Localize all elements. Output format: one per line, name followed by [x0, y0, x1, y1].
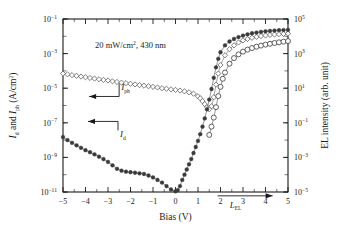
data-point: [111, 163, 115, 167]
data-point: [187, 162, 191, 166]
data-point: [129, 170, 133, 174]
data-point: [264, 29, 268, 33]
data-point: [286, 39, 291, 44]
data-point: [219, 50, 223, 54]
data-point: [207, 98, 211, 102]
data-point: [189, 157, 193, 161]
annotation-illumination: 20 mW/cm2, 430 nm: [95, 40, 166, 50]
data-point: [194, 145, 198, 149]
data-point: [255, 31, 259, 35]
data-point: [220, 76, 225, 81]
data-point: [160, 181, 164, 185]
data-point: [277, 28, 281, 32]
data-point: [282, 28, 286, 32]
chart-canvas: −5−4−3−2−101234510−1110−910−710−510−310−…: [0, 0, 342, 237]
data-point: [246, 32, 250, 36]
x-tick-label: 3: [241, 197, 245, 206]
data-point: [156, 178, 160, 182]
data-point: [120, 169, 124, 173]
y2-axis-label: EL intensity (arb. unit): [320, 62, 331, 149]
data-point: [142, 172, 146, 176]
data-point: [185, 168, 189, 172]
x-tick-label: −3: [104, 197, 113, 206]
data-point: [286, 28, 290, 32]
x-axis-label: Bias (V): [159, 212, 191, 223]
data-point: [196, 139, 200, 143]
x-tick-label: 1: [196, 197, 200, 206]
x-tick-label: −1: [149, 197, 158, 206]
data-point: [70, 141, 74, 145]
x-tick-label: −4: [81, 197, 90, 206]
data-point: [268, 29, 272, 33]
y-axis-label: Id and Iph (A/cm2): [8, 73, 20, 140]
data-point: [214, 65, 218, 69]
data-point: [216, 57, 220, 61]
data-point: [183, 173, 187, 177]
data-point: [273, 29, 277, 33]
data-point: [210, 87, 214, 91]
data-point: [209, 124, 214, 129]
data-point: [214, 105, 219, 110]
data-point: [218, 84, 223, 89]
data-point: [97, 155, 101, 159]
data-point: [259, 30, 263, 34]
data-point: [115, 167, 119, 171]
data-point: [180, 178, 184, 182]
x-tick-label: 2: [219, 197, 223, 206]
data-point: [102, 157, 106, 161]
x-tick-label: 0: [174, 197, 178, 206]
data-point: [207, 132, 212, 137]
x-tick-label: 5: [286, 197, 290, 206]
data-point: [237, 35, 241, 39]
data-point: [79, 146, 83, 150]
data-point: [227, 61, 232, 66]
data-point: [93, 152, 97, 156]
figure-container: −5−4−3−2−101234510−1110−910−710−510−310−…: [0, 0, 342, 237]
data-point: [176, 188, 180, 192]
data-point: [84, 148, 88, 152]
data-point: [203, 116, 207, 120]
x-tick-label: −2: [126, 197, 135, 206]
data-point: [75, 143, 79, 147]
data-point: [133, 171, 137, 175]
data-point: [147, 174, 151, 178]
data-point: [236, 52, 241, 57]
data-point: [165, 184, 169, 188]
data-point: [201, 125, 205, 129]
data-point: [198, 132, 202, 136]
data-point: [223, 43, 227, 47]
data-point: [241, 34, 245, 38]
data-point: [138, 171, 142, 175]
data-point: [106, 160, 110, 164]
data-point: [205, 107, 209, 111]
data-point: [178, 184, 182, 188]
data-point: [61, 135, 65, 139]
x-tick-label: 4: [264, 197, 268, 206]
data-point: [151, 175, 155, 179]
data-point: [124, 170, 128, 174]
data-point: [66, 138, 70, 142]
x-tick-label: −5: [59, 197, 68, 206]
data-point: [250, 31, 254, 35]
data-point: [223, 70, 228, 75]
data-point: [232, 37, 236, 41]
data-point: [88, 150, 92, 154]
data-point: [211, 115, 216, 120]
data-point: [169, 188, 173, 192]
data-point: [232, 56, 237, 61]
data-point: [192, 151, 196, 155]
data-point: [228, 40, 232, 44]
data-point: [216, 94, 221, 99]
data-point: [212, 76, 216, 80]
